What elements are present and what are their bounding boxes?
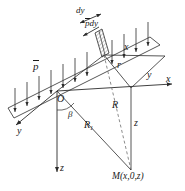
label-angle-beta: β: [68, 110, 72, 119]
label-segment-x: x: [124, 42, 128, 52]
load-band: [8, 37, 160, 118]
radius-R-dashed: [104, 55, 131, 170]
triangle-xry: [104, 55, 165, 88]
band-right-end: [150, 37, 160, 45]
label-p-dy: pdy: [85, 19, 98, 28]
label-segment-r: r: [117, 60, 121, 70]
label-axis-y: y: [17, 126, 21, 136]
radius-R1: [57, 91, 131, 170]
label-radius-R: R: [112, 100, 118, 110]
band-lower-edge: [8, 37, 150, 108]
label-axis-x: x: [166, 74, 170, 84]
label-distributed-load-p: p: [33, 61, 39, 72]
label-dy: dy: [76, 6, 85, 15]
label-point-M: M(x,0,z): [112, 172, 144, 182]
label-origin-O: O: [57, 94, 64, 104]
label-axis-z: z: [60, 163, 64, 173]
label-segment-y: y: [147, 70, 151, 80]
strip-element-dy: [95, 29, 109, 57]
strip-load-diagram: [0, 0, 185, 191]
y-axis: [16, 91, 57, 125]
label-radius-R1: R1: [84, 120, 93, 131]
label-segment-z: z: [134, 118, 138, 128]
origin-connector: [57, 55, 104, 91]
band-left-end: [8, 108, 14, 118]
